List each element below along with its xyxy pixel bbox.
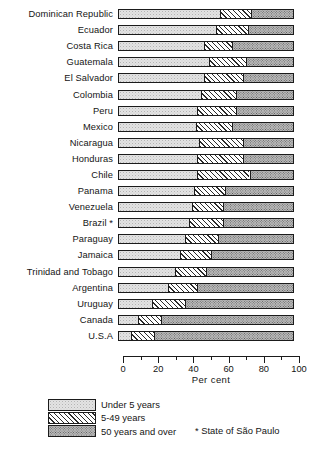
- chart-row: U.S.A: [0, 328, 320, 344]
- x-axis-minor-tick: [176, 356, 177, 360]
- bar-segment-under-5-years: [119, 187, 194, 195]
- bar-segment-5-49-years: [204, 42, 232, 50]
- category-label: Colombia: [0, 90, 118, 100]
- category-label: Mexico: [0, 122, 118, 132]
- bar-segment-50-years-and-over: [236, 91, 293, 99]
- stacked-bar: [118, 25, 294, 35]
- chart-row: Panama: [0, 183, 320, 199]
- category-label: El Salvador: [0, 73, 118, 83]
- chart-row: Trinidad and Tobago: [0, 264, 320, 280]
- category-label: Brazil *: [0, 218, 118, 228]
- bar-segment-under-5-years: [119, 123, 196, 131]
- bar-segment-50-years-and-over: [154, 332, 293, 340]
- stacked-bar: [118, 234, 294, 244]
- bar-segment-5-49-years: [199, 139, 243, 147]
- bar-segment-5-49-years: [168, 284, 198, 292]
- stacked-bar: [118, 170, 294, 180]
- stacked-bar: [118, 154, 294, 164]
- bar-segment-50-years-and-over: [232, 123, 293, 131]
- category-label: Trinidad and Tobago: [0, 267, 118, 277]
- legend-item: 5-49 years: [48, 411, 176, 424]
- x-axis-tick-label: 20: [153, 364, 163, 374]
- x-axis-tick-label: 40: [188, 364, 198, 374]
- x-axis-tick-label: 0: [120, 364, 125, 374]
- category-label: Honduras: [0, 154, 118, 164]
- chart-footnote: * State of São Paulo: [195, 425, 279, 436]
- bar-segment-5-49-years: [138, 316, 161, 324]
- x-axis-major-tick: [193, 356, 194, 363]
- stacked-bar: [118, 283, 294, 293]
- category-label: Canada: [0, 315, 118, 325]
- bar-segment-50-years-and-over: [218, 235, 293, 243]
- stacked-bar: [118, 315, 294, 325]
- bar-segment-5-49-years: [152, 300, 185, 308]
- bar-segment-50-years-and-over: [243, 139, 293, 147]
- stacked-bar: [118, 138, 294, 148]
- chart-row: Argentina: [0, 280, 320, 296]
- chart-row: Ecuador: [0, 22, 320, 38]
- bar-segment-5-49-years: [189, 219, 224, 227]
- stacked-bar: [118, 250, 294, 260]
- category-label: U.S.A: [0, 331, 118, 341]
- bar-segment-5-49-years: [216, 26, 247, 34]
- bar-segment-under-5-years: [119, 10, 220, 18]
- stacked-bar: [118, 90, 294, 100]
- bar-segment-50-years-and-over: [161, 316, 293, 324]
- category-label: Jamaica: [0, 250, 118, 260]
- bar-segment-5-49-years: [194, 187, 225, 195]
- category-label: Panama: [0, 186, 118, 196]
- bar-segment-under-5-years: [119, 300, 152, 308]
- stacked-bar: [118, 267, 294, 277]
- chart-row: Chile: [0, 167, 320, 183]
- category-label: Paraguay: [0, 234, 118, 244]
- bar-segment-under-5-years: [119, 284, 168, 292]
- x-axis-tick-label: 100: [291, 364, 307, 374]
- category-label: Costa Rica: [0, 41, 118, 51]
- chart-row: Mexico: [0, 119, 320, 135]
- legend-label: 5-49 years: [101, 412, 145, 423]
- x-axis-minor-tick: [141, 356, 142, 360]
- chart-row: Peru: [0, 103, 320, 119]
- bar-segment-5-49-years: [220, 10, 251, 18]
- stacked-bar: [118, 41, 294, 51]
- stacked-bar: [118, 218, 294, 228]
- x-axis-major-tick: [158, 356, 159, 363]
- chart-row: Uruguay: [0, 296, 320, 312]
- x-axis-major-tick: [299, 356, 300, 363]
- stacked-bar: [118, 73, 294, 83]
- stacked-bar: [118, 106, 294, 116]
- category-label: Peru: [0, 106, 118, 116]
- x-axis: 020406080100: [123, 356, 301, 357]
- stacked-bar: [118, 202, 294, 212]
- bar-segment-under-5-years: [119, 139, 199, 147]
- legend-swatch-icon: [48, 412, 96, 424]
- bar-segment-5-49-years: [197, 171, 249, 179]
- chart-row: Jamaica: [0, 247, 320, 263]
- bar-segment-5-49-years: [201, 91, 236, 99]
- chart-row: Canada: [0, 312, 320, 328]
- legend-item: Under 5 years: [48, 398, 176, 411]
- bar-segment-5-49-years: [209, 58, 246, 66]
- bar-segment-5-49-years: [180, 251, 211, 259]
- chart-row: Venezuela: [0, 199, 320, 215]
- bar-segment-50-years-and-over: [211, 251, 293, 259]
- category-label: Argentina: [0, 283, 118, 293]
- chart-row: Honduras: [0, 151, 320, 167]
- bar-segment-under-5-years: [119, 316, 138, 324]
- category-label: Dominican Republic: [0, 9, 118, 19]
- bar-segment-under-5-years: [119, 219, 189, 227]
- bar-segment-5-49-years: [204, 74, 242, 82]
- bar-segment-50-years-and-over: [236, 107, 293, 115]
- bar-segment-50-years-and-over: [206, 268, 293, 276]
- bar-segment-5-49-years: [196, 123, 233, 131]
- chart-row: Nicaragua: [0, 135, 320, 151]
- category-label: Ecuador: [0, 25, 118, 35]
- chart-row: El Salvador: [0, 70, 320, 86]
- bar-segment-50-years-and-over: [243, 74, 293, 82]
- bar-segment-50-years-and-over: [223, 203, 293, 211]
- legend-label: 50 years and over: [101, 426, 176, 437]
- bar-segment-under-5-years: [119, 235, 185, 243]
- bar-segment-50-years-and-over: [225, 187, 293, 195]
- bar-segment-50-years-and-over: [246, 58, 293, 66]
- stacked-bar: [118, 299, 294, 309]
